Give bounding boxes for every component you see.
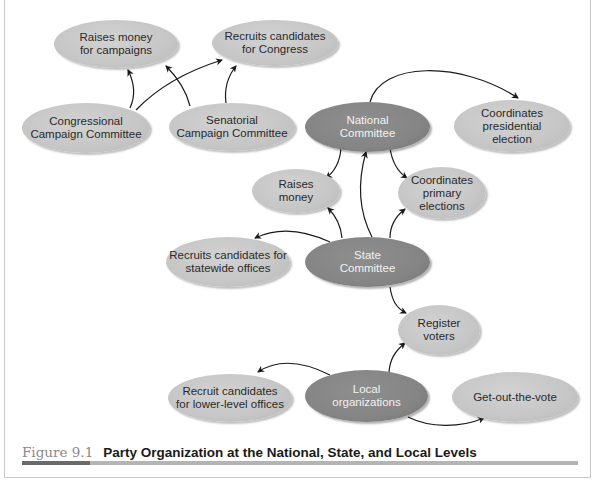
- node-label: Senatorial Campaign Committee: [176, 114, 287, 140]
- node-label: Recruits candidates for statewide office…: [169, 249, 287, 275]
- node-label: Local organizations: [332, 383, 400, 409]
- figure-caption: Figure 9.1 Party Organization at the Nat…: [22, 444, 477, 460]
- edge-national-to-coordinates-primary: [390, 148, 407, 178]
- figure-title: Party Organization at the National, Stat…: [103, 445, 477, 460]
- node-senatorial-campaign-committee: Senatorial Campaign Committee: [169, 103, 295, 151]
- node-label: Register voters: [418, 317, 461, 343]
- node-label: Coordinates presidential election: [481, 107, 543, 146]
- caption-rule: [90, 461, 578, 465]
- node-label: Raises money for campaigns: [80, 31, 153, 57]
- edge-state-to-raises-money: [328, 208, 342, 238]
- caption-rule-accent: [22, 461, 90, 465]
- edge-state-to-recruits-statewide: [255, 231, 330, 242]
- edge-national-to-raises-money: [326, 148, 341, 178]
- node-label: Coordinates primary elections: [411, 174, 473, 213]
- edge-state-to-register-voters: [390, 287, 406, 313]
- node-state-committee: State Committee: [305, 237, 430, 287]
- edge-national-to-coordinates-presidential: [370, 71, 518, 102]
- node-recruits-candidates-for-congress: Recruits candidates for Congress: [212, 20, 338, 66]
- edge-local-to-recruit-lower-level: [258, 363, 330, 375]
- edge-congressional-to-raises-money-campaigns: [128, 70, 134, 108]
- node-label: Recruit candidates for lower-level offic…: [176, 385, 284, 411]
- node-coordinates-primary-elections: Coordinates primary elections: [398, 167, 486, 219]
- node-register-voters: Register voters: [398, 305, 480, 355]
- edge-local-to-register-voters: [389, 343, 405, 372]
- node-congressional-campaign-committee: Congressional Campaign Committee: [22, 103, 150, 153]
- node-coordinates-presidential-election: Coordinates presidential election: [454, 100, 570, 152]
- node-label: Get-out-the-vote: [473, 391, 557, 404]
- node-label: Congressional Campaign Committee: [30, 115, 141, 141]
- edge-local-to-get-out-the-vote: [408, 417, 484, 425]
- edge-congressional-to-recruits-congress: [136, 60, 222, 110]
- node-get-out-the-vote: Get-out-the-vote: [452, 372, 578, 422]
- node-recruits-candidates-statewide: Recruits candidates for statewide office…: [166, 237, 290, 287]
- node-label: Recruits candidates for Congress: [225, 30, 326, 56]
- node-label: National Committee: [340, 114, 396, 140]
- node-local-organizations: Local organizations: [305, 370, 428, 422]
- edge-state-to-coordinates-primary: [390, 209, 405, 238]
- node-label: State Committee: [340, 249, 396, 275]
- edge-state-to-national: [361, 152, 372, 237]
- node-raises-money: Raises money: [252, 169, 340, 213]
- edge-senatorial-to-recruits-congress: [225, 66, 236, 103]
- node-raises-money-for-campaigns: Raises money for campaigns: [54, 20, 178, 68]
- node-national-committee: National Committee: [305, 102, 430, 152]
- node-label: Raises money: [278, 178, 313, 204]
- figure-number: Figure 9.1: [22, 444, 93, 460]
- node-recruit-candidates-lower-level: Recruit candidates for lower-level offic…: [168, 374, 292, 422]
- edge-senatorial-to-raises-money-campaigns: [166, 66, 190, 106]
